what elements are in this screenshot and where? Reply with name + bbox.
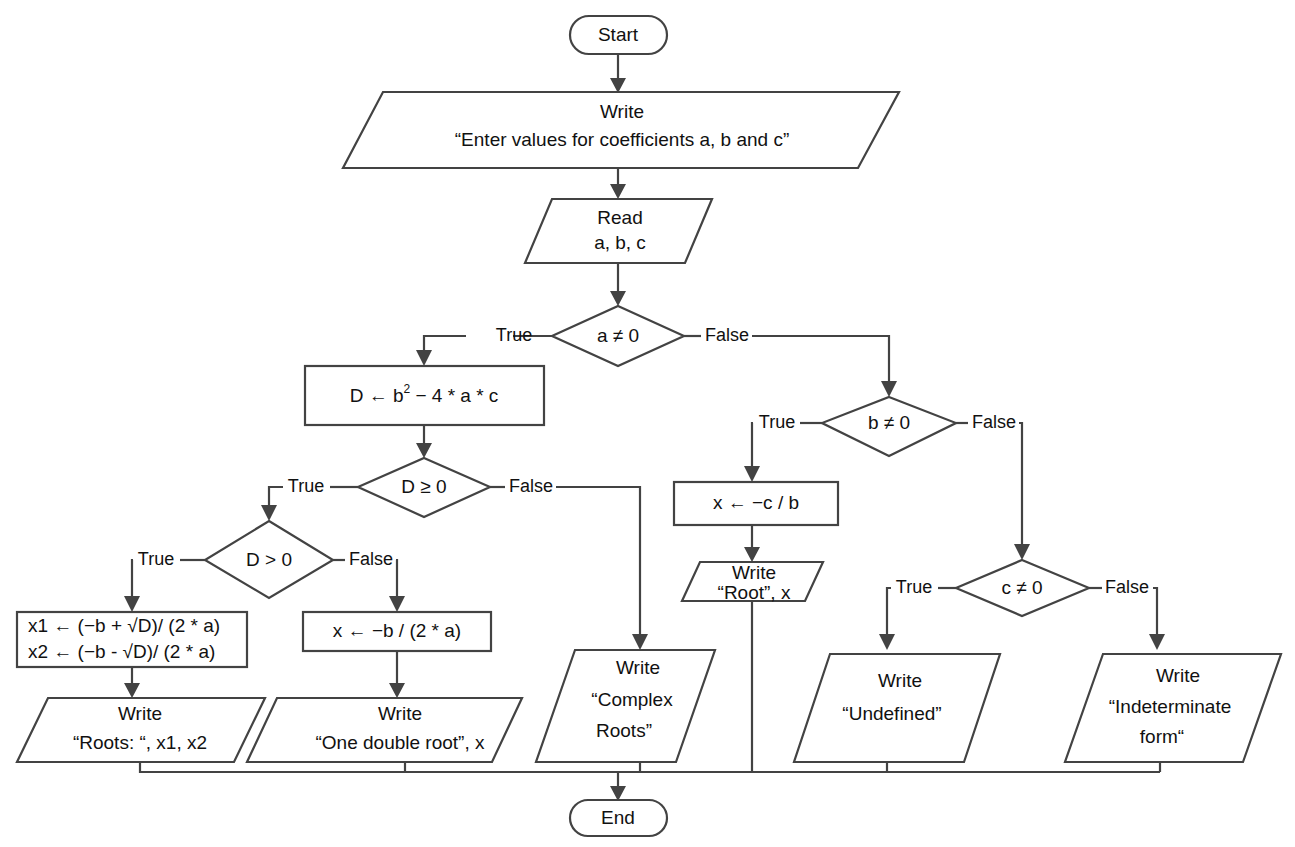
edge-label-b-true: True: [759, 412, 795, 432]
node-calc-roots[interactable]: x1 ← (−b + √D)/ (2 * a) x2 ← (−b - √D)/ …: [17, 612, 247, 667]
calc-d-prefix: D ← b: [350, 385, 404, 406]
edge-dec-c-true-h2: [887, 588, 891, 641]
calc-double-root-label: x ← −b / (2 * a): [333, 620, 461, 641]
calc-discriminant-label: D ← b2 − 4 * a * c: [350, 382, 499, 406]
edge-label-c-false: False: [1105, 577, 1149, 597]
edge-dec-c-false-h2: [1153, 588, 1157, 641]
arrowhead-calc-d-to-dec-dge: [416, 443, 432, 458]
write-root-line1: Write: [732, 562, 776, 583]
node-calc-discriminant[interactable]: D ← b2 − 4 * a * c: [305, 366, 544, 425]
arrowhead-calc-roots-to-write-roots: [124, 683, 140, 698]
edge-dec-a-true-h2: [424, 336, 466, 357]
arrowhead-dec-c-false: [1149, 634, 1165, 650]
node-end[interactable]: End: [570, 800, 667, 836]
write-complex-line1: Write: [616, 657, 660, 678]
write-prompt-line2: “Enter values for coefficients a, b and …: [455, 129, 789, 150]
node-write-undefined[interactable]: Write “Undefined”: [794, 654, 1000, 762]
edge-label-dge-false: False: [509, 476, 553, 496]
node-decision-b[interactable]: b ≠ 0: [822, 397, 956, 456]
write-complex-line3: Roots”: [596, 720, 652, 741]
arrowhead-start-to-write-prompt: [610, 78, 626, 93]
end-label: End: [601, 807, 635, 828]
node-write-root[interactable]: Write “Root”, x: [682, 562, 823, 603]
arrowhead-dec-dgt-false: [389, 596, 405, 612]
node-write-prompt[interactable]: Write “Enter values for coefficients a, …: [343, 92, 899, 168]
write-double-root-line1: Write: [378, 703, 422, 724]
node-decision-d-ge[interactable]: D ≥ 0: [358, 458, 490, 517]
write-root-line2: “Root”, x: [718, 582, 791, 603]
edge-label-b-false: False: [972, 412, 1016, 432]
edge-label-dgt-false: False: [349, 549, 393, 569]
write-prompt-line1: Write: [600, 101, 644, 122]
start-label: Start: [598, 24, 639, 45]
read-line1: Read: [597, 207, 642, 228]
calc-roots-line2: x2 ← (−b - √D)/ (2 * a): [28, 641, 215, 662]
arrowhead-bus-to-end: [610, 786, 626, 801]
edge-label-a-false: False: [705, 325, 749, 345]
edge-dec-dge-false-h2: [556, 487, 640, 641]
write-indeterminate-line3: form“: [1140, 726, 1184, 747]
arrowhead-dec-dgt-true: [124, 596, 140, 612]
edge-label-a-true: True: [496, 325, 532, 345]
arrowhead-dec-b-false: [1014, 544, 1030, 560]
calc-roots-line1: x1 ← (−b + √D)/ (2 * a): [28, 615, 220, 636]
arrowhead-write-prompt-to-read: [610, 184, 626, 199]
write-undefined-line1: Write: [878, 670, 922, 691]
arrowhead-read-to-dec-a: [610, 291, 626, 306]
arrowhead-dec-a-true: [416, 350, 432, 366]
node-calc-double-root[interactable]: x ← −b / (2 * a): [303, 612, 491, 651]
edge-dec-a-false-h2: [752, 336, 889, 388]
write-undefined-line2: “Undefined”: [842, 703, 941, 724]
arrowhead-calc-double-to-write-double: [389, 683, 405, 698]
decision-d-ge-label: D ≥ 0: [401, 476, 446, 497]
decision-c-label: c ≠ 0: [1001, 577, 1042, 598]
write-indeterminate-line2: “Indeterminate: [1109, 696, 1232, 717]
node-write-indeterminate[interactable]: Write “Indeterminate form“: [1065, 654, 1281, 762]
write-roots-line1: Write: [118, 703, 162, 724]
decision-b-label: b ≠ 0: [868, 412, 910, 433]
edge-merge-bus: [140, 762, 1160, 772]
node-write-roots[interactable]: Write “Roots: “, x1, x2: [17, 698, 265, 762]
write-indeterminate-line1: Write: [1156, 665, 1200, 686]
edge-label-c-true: True: [896, 577, 932, 597]
write-complex-line2: “Complex: [591, 689, 673, 710]
node-decision-d-gt[interactable]: D > 0: [205, 521, 333, 598]
arrowhead-dec-dge-true: [261, 505, 277, 521]
edge-label-dge-true: True: [288, 476, 324, 496]
arrowhead-dec-a-false: [881, 381, 897, 397]
node-decision-c[interactable]: c ≠ 0: [956, 560, 1089, 616]
arrowhead-dec-dge-false: [632, 634, 648, 650]
arrowhead-dec-c-true: [879, 634, 895, 650]
arrowhead-dec-b-true: [744, 466, 760, 482]
edge-label-dgt-true: True: [138, 549, 174, 569]
calc-linear-label: x ← −c / b: [713, 492, 799, 513]
calc-d-suffix: − 4 * a * c: [410, 385, 498, 406]
flowchart-canvas: Start Write “Enter values for coefficien…: [0, 0, 1295, 847]
node-read-abc[interactable]: Read a, b, c: [525, 199, 712, 263]
decision-d-gt-label: D > 0: [246, 549, 292, 570]
node-calc-linear[interactable]: x ← −c / b: [674, 482, 838, 525]
read-line2: a, b, c: [594, 232, 646, 253]
arrowhead-calc-linear-to-write-root: [744, 547, 760, 562]
node-start[interactable]: Start: [570, 16, 667, 54]
edge-dec-b-true-h2: [752, 423, 753, 473]
node-decision-a[interactable]: a ≠ 0: [552, 306, 684, 366]
edge-dec-b-false-h2: [1019, 423, 1022, 551]
node-write-complex[interactable]: Write “Complex Roots”: [536, 650, 715, 762]
write-double-root-line2: “One double root”, x: [316, 732, 485, 753]
flowchart-svg: Start Write “Enter values for coefficien…: [0, 0, 1295, 847]
write-roots-line2: “Roots: “, x1, x2: [73, 732, 207, 753]
decision-a-label: a ≠ 0: [597, 325, 639, 346]
node-write-double-root[interactable]: Write “One double root”, x: [247, 698, 522, 762]
